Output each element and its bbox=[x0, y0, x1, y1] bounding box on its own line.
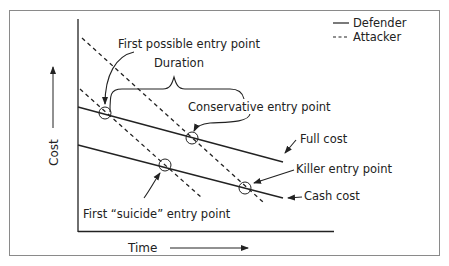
killer-entry-pointer bbox=[254, 170, 294, 183]
defender-cash-cost-line bbox=[78, 145, 283, 198]
cost-time-diagram: Cost Time Defender Attacker First possib… bbox=[0, 0, 449, 266]
first-suicide-entry-label: First “suicide” entry point bbox=[83, 207, 231, 221]
cash-cost-label: Cash cost bbox=[304, 189, 360, 203]
legend-defender-label: Defender bbox=[353, 16, 407, 30]
attacker-line-lower bbox=[80, 89, 202, 198]
first-suicide-entry-pointer bbox=[144, 173, 160, 198]
first-possible-entry-label: First possible entry point bbox=[118, 37, 260, 51]
cash-cost-pointer bbox=[288, 197, 302, 198]
legend-attacker-label: Attacker bbox=[353, 30, 401, 44]
full-cost-pointer bbox=[285, 140, 296, 153]
conservative-entry-pointer bbox=[194, 114, 250, 131]
duration-label: Duration bbox=[154, 56, 204, 70]
conservative-entry-label: Conservative entry point bbox=[188, 100, 331, 114]
y-axis-label: Cost bbox=[47, 139, 61, 166]
x-axis-label: Time bbox=[127, 241, 157, 255]
killer-entry-label: Killer entry point bbox=[296, 162, 392, 176]
first-possible-entry-pointer bbox=[105, 52, 134, 104]
full-cost-label: Full cost bbox=[300, 132, 348, 146]
defender-full-cost-line bbox=[78, 107, 283, 162]
